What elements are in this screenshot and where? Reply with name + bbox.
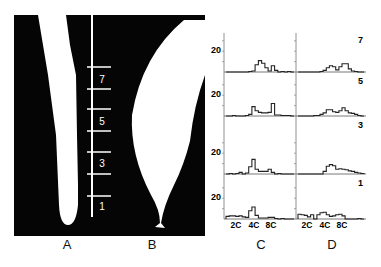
histogram-c-row-5 — [226, 104, 294, 117]
histogram-c-row-7 — [226, 61, 294, 72]
histogram-d-row-7 — [298, 64, 364, 72]
y-tick-label: 20 — [211, 147, 221, 157]
histogram-column-d: 75312C4C8C — [294, 33, 366, 230]
panel-label-a: A — [63, 237, 72, 252]
x-tick-label: 2C — [302, 220, 313, 230]
panel-label-b: B — [148, 237, 157, 252]
x-tick-label: 4C — [320, 220, 331, 230]
y-tick-label: 20 — [211, 89, 221, 99]
x-tick-label: 8C — [266, 220, 277, 230]
row-label: 3 — [358, 120, 363, 130]
histogram-c-row-3 — [226, 159, 294, 174]
x-tick-label: 8C — [337, 220, 348, 230]
row-label: 7 — [358, 35, 363, 45]
panel-label-d: D — [327, 237, 336, 252]
histogram-c-row-1 — [226, 207, 294, 219]
histogram-d-row-1 — [298, 212, 364, 219]
y-tick-label: 20 — [211, 45, 221, 55]
x-tick-label: 2C — [231, 220, 242, 230]
histogram-panels: 202020202C4C8C 75312C4C8C — [0, 0, 381, 267]
row-label: 5 — [358, 76, 363, 86]
histogram-d-row-5 — [298, 108, 364, 116]
y-tick-label: 20 — [211, 192, 221, 202]
histogram-column-c: 202020202C4C8C — [211, 33, 296, 230]
histogram-d-row-3 — [298, 165, 364, 174]
row-label: 1 — [358, 178, 363, 188]
x-tick-label: 4C — [249, 220, 260, 230]
panel-label-c: C — [256, 237, 265, 252]
